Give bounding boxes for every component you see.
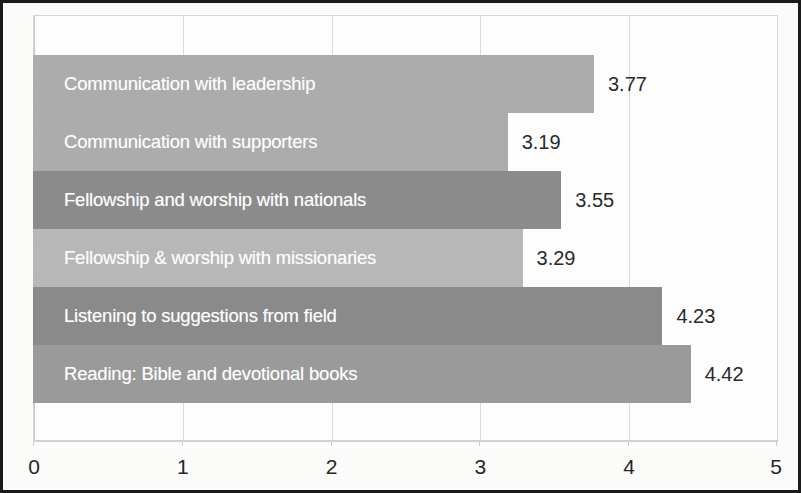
bar-row: Reading: Bible and devotional books 4.42 [33,345,777,403]
bar-row: Fellowship and worship with nationals 3.… [33,171,777,229]
bar-category-label: Communication with leadership [33,73,315,95]
bar-reading-bible-and-devotional-books[interactable]: Reading: Bible and devotional books [33,345,691,403]
bar-value-label: 4.23 [662,287,715,345]
bar-value-label: 3.55 [561,171,614,229]
x-tick-label-5: 5 [770,455,782,479]
bar-fellowship-and-worship-with-missionaries[interactable]: Fellowship & worship with missionaries [33,229,523,287]
bar-communication-with-supporters[interactable]: Communication with supporters [33,113,508,171]
x-tickmark [182,441,183,446]
x-tick-label-2: 2 [326,455,338,479]
bar-category-label: Fellowship and worship with nationals [33,189,366,211]
bar-value-label: 3.19 [508,113,561,171]
bar-series: Communication with leadership 3.77 Commu… [33,55,777,403]
x-tickmark [628,441,629,446]
bar-listening-to-suggestions-from-field[interactable]: Listening to suggestions from field [33,287,662,345]
x-tickmark [479,441,480,446]
x-tick-label-0: 0 [28,455,40,479]
x-tickmark [33,441,34,446]
bar-row: Listening to suggestions from field 4.23 [33,287,777,345]
bar-value-label: 3.77 [594,55,647,113]
bar-chart-figure: Communication with leadership 3.77 Commu… [0,0,801,493]
bar-row: Fellowship & worship with missionaries 3… [33,229,777,287]
x-tick-label-1: 1 [177,455,189,479]
x-tickmark [331,441,332,446]
bar-fellowship-and-worship-with-nationals[interactable]: Fellowship and worship with nationals [33,171,561,229]
bar-row: Communication with supporters 3.19 [33,113,777,171]
bar-communication-with-leadership[interactable]: Communication with leadership [33,55,594,113]
bar-value-label: 4.42 [691,345,744,403]
bar-category-label: Reading: Bible and devotional books [33,363,357,385]
x-tickmark [776,441,777,446]
bar-category-label: Fellowship & worship with missionaries [33,247,376,269]
bar-category-label: Communication with supporters [33,131,317,153]
x-tick-label-3: 3 [475,455,487,479]
bar-category-label: Listening to suggestions from field [33,305,337,327]
bar-value-label: 3.29 [523,229,576,287]
bar-row: Communication with leadership 3.77 [33,55,777,113]
gridline-5 [777,16,778,441]
x-tick-label-4: 4 [623,455,635,479]
x-axis: 0 1 2 3 4 5 [33,441,777,481]
